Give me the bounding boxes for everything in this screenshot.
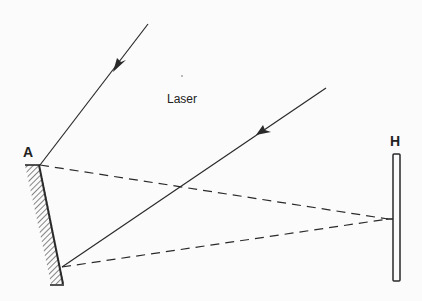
laser-beam-2 (62, 88, 326, 267)
arrowhead-icon (113, 58, 126, 72)
mirror-a (25, 165, 64, 285)
plate-h (393, 154, 400, 281)
laser-beam-1 (40, 24, 148, 165)
reflected-rays (40, 165, 393, 267)
diagram-canvas (0, 0, 422, 301)
plate-label-h: H (390, 133, 400, 149)
holography-diagram: Laser A H (0, 0, 422, 301)
mirror-label-a: A (23, 144, 33, 160)
laser-label: Laser (167, 92, 197, 106)
